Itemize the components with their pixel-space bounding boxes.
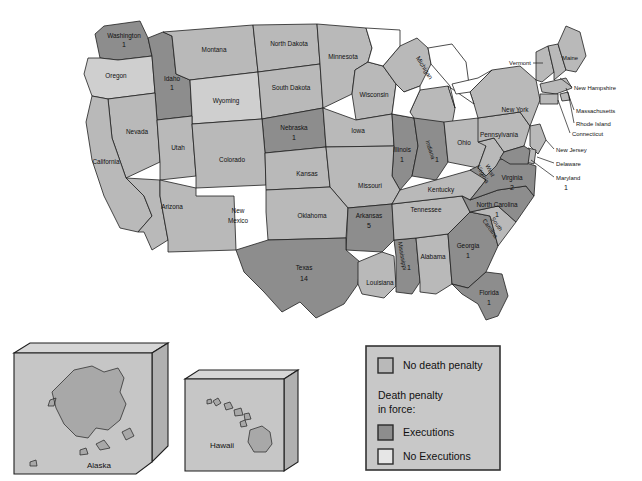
state-indiana[interactable] <box>412 118 448 180</box>
state-newmexico[interactable] <box>160 180 236 252</box>
count-maryland: 1 <box>564 184 568 191</box>
hawaii-label: Hawaii <box>210 441 234 450</box>
state-mississippi[interactable] <box>394 238 420 294</box>
legend-label-no-executions: No Executions <box>403 450 471 462</box>
state-oregon[interactable] <box>84 56 155 99</box>
legend-swatch-no-death-penalty[interactable] <box>378 358 393 373</box>
state-northdakota[interactable] <box>253 24 320 72</box>
map-figure: Washington 1 Oregon Idaho 1 Montana Wyom… <box>0 0 642 481</box>
state-wyoming[interactable] <box>190 72 262 124</box>
label-newjersey: New Jersey <box>556 147 587 153</box>
alaska-inset[interactable]: Alaska <box>14 343 168 474</box>
state-texas[interactable] <box>236 238 360 318</box>
state-louisiana[interactable] <box>358 252 396 298</box>
legend-swatch-no-executions[interactable] <box>378 449 393 464</box>
label-rhodeisland: Rhode Island <box>576 121 611 127</box>
state-colorado[interactable] <box>192 119 266 188</box>
label-massachusetts: Massachusetts <box>576 108 615 114</box>
state-oklahoma[interactable] <box>266 187 348 240</box>
state-utah[interactable] <box>157 116 196 180</box>
legend-label-executions: Executions <box>403 426 454 438</box>
state-washington[interactable] <box>95 21 152 60</box>
legend-label-no-death-penalty: No death penalty <box>403 359 483 371</box>
label-delaware: Delaware <box>556 161 582 167</box>
legend-heading-line1: Death penalty <box>378 389 444 401</box>
alaska-label: Alaska <box>87 461 112 470</box>
state-arkansas[interactable] <box>346 204 394 252</box>
label-connecticut: Connecticut <box>572 131 603 137</box>
legend-heading-line2: in force: <box>378 403 415 415</box>
state-montana[interactable] <box>163 25 258 80</box>
contiguous-us-map: Washington 1 Oregon Idaho 1 Montana Wyom… <box>84 21 617 320</box>
label-maryland: Maryland <box>556 175 580 181</box>
legend-swatch-executions[interactable] <box>378 425 393 440</box>
label-vermont: Vermont <box>509 60 531 66</box>
state-connecticut[interactable] <box>540 94 558 104</box>
legend: No death penalty Death penalty in force:… <box>366 346 500 470</box>
label-newhampshire: New Hampshire <box>574 85 617 91</box>
hawaii-inset[interactable]: Hawaii <box>185 370 298 471</box>
state-kansas[interactable] <box>265 147 330 190</box>
us-death-penalty-map: Washington 1 Oregon Idaho 1 Montana Wyom… <box>0 0 642 481</box>
state-rhodeisland[interactable] <box>560 92 570 101</box>
state-alabama[interactable] <box>416 234 452 294</box>
state-illinois[interactable] <box>392 114 418 190</box>
